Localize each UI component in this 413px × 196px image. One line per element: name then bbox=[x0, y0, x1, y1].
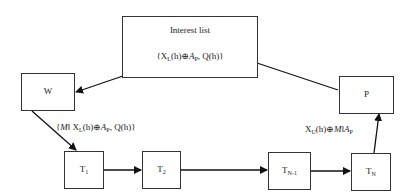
node-p: P bbox=[339, 76, 394, 114]
edge-label-w-to-t1: {M‖ XL(h)⊕AP, Q(h)} bbox=[56, 123, 136, 133]
node-tn-label: TN bbox=[352, 166, 390, 177]
edge-tn-to-p bbox=[374, 114, 379, 153]
interest-list-content: {XL(h)⊕AP, Q(h)} bbox=[123, 51, 257, 62]
edge-label-tn-to-p: XU(h)⊕M‖AP bbox=[305, 125, 353, 135]
interest-list-box: Interest list {XL(h)⊕AP, Q(h)} bbox=[122, 16, 258, 78]
node-tn-1: TN-1 bbox=[268, 152, 311, 190]
node-t1: T1 bbox=[64, 151, 104, 189]
edge-p-to-interest bbox=[245, 59, 338, 90]
node-tn: TN bbox=[351, 153, 391, 191]
node-t2: T2 bbox=[142, 151, 181, 189]
interest-list-title: Interest list bbox=[123, 25, 257, 35]
node-w: W bbox=[21, 73, 75, 111]
node-t1-label: T1 bbox=[65, 164, 103, 175]
node-t2-label: T2 bbox=[143, 164, 180, 175]
node-p-label: P bbox=[340, 89, 393, 99]
node-tn-1-label: TN-1 bbox=[269, 165, 310, 176]
node-w-label: W bbox=[22, 86, 74, 96]
